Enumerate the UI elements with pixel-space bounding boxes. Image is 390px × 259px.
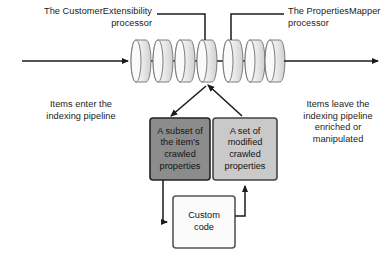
label-properties-mapper-processor: The PropertiesMapper processor — [288, 6, 388, 29]
tap-out-arrow — [171, 86, 206, 116]
pipeline-stage-5-properties-mapper — [223, 40, 243, 82]
label-items-leave-pipeline: Items leave the indexing pipeline enrich… — [288, 99, 388, 145]
pipeline-stage-4-customer-extensibility — [197, 40, 217, 82]
pipeline-diagram: The CustomerExtensibility processor The … — [0, 0, 390, 259]
box-subset-label: A subset of the item's crawled propertie… — [152, 120, 208, 178]
tap-in-arrow — [208, 85, 242, 116]
subset-to-code-arrow — [163, 180, 167, 222]
pipeline-stage-3 — [175, 40, 195, 82]
pipeline-stage-1 — [131, 40, 151, 82]
pipeline-stages — [131, 40, 285, 82]
box-modified-label: A set of modified crawled properties — [215, 120, 275, 178]
properties-mapper-leader-line — [231, 14, 284, 40]
pipeline-stage-7 — [265, 40, 285, 82]
pipeline-stage-2 — [153, 40, 173, 82]
customer-extensibility-leader-line — [157, 14, 205, 40]
label-customer-extensibility-processor: The CustomerExtensibility processor — [6, 6, 152, 29]
code-to-modified-arrow — [235, 186, 245, 216]
label-items-enter-pipeline: Items enter the indexing pipeline — [22, 99, 140, 122]
pipeline-stage-6 — [245, 40, 265, 82]
box-custom-code-label: Custom code — [175, 199, 233, 245]
